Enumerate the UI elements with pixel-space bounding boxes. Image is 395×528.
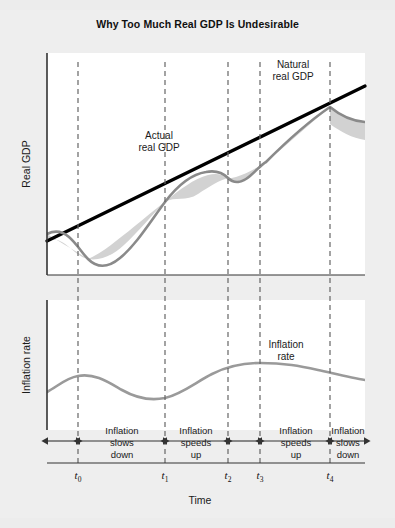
natural-real-gdp-label-line1: Natural xyxy=(277,59,309,70)
x-axis-label: Time xyxy=(189,494,212,506)
x-tick-t3: t3 xyxy=(257,469,264,484)
bottom-plot-area xyxy=(47,300,365,430)
natural-real-gdp-label-line2: real GDP xyxy=(272,71,313,82)
band-3-line1: Inflation xyxy=(331,425,364,436)
band-2-line1: Inflation xyxy=(279,425,312,436)
band-2-line3: up xyxy=(291,449,302,460)
bottom-y-axis-label: Inflation rate xyxy=(20,336,32,394)
chart-svg: Real GDP Actual real GDP Natural real GD… xyxy=(0,0,395,528)
inflation-rate-label-line1: Inflation xyxy=(268,339,303,350)
x-tick-t2: t2 xyxy=(225,469,232,484)
x-tick-t1: t1 xyxy=(162,469,169,484)
band-0-line3: down xyxy=(111,449,134,460)
band-0-line1: Inflation xyxy=(105,425,138,436)
top-y-axis-label: Real GDP xyxy=(20,140,32,187)
band-1-line1: Inflation xyxy=(179,425,212,436)
x-tick-t4: t4 xyxy=(327,469,334,484)
band-2-line2: speeds xyxy=(281,437,312,448)
band-1-line3: up xyxy=(191,449,202,460)
x-tick-t0: t0 xyxy=(75,469,82,484)
figure-container: Why Too Much Real GDP Is Undesirable xyxy=(0,0,395,528)
band-3-line3: down xyxy=(337,449,360,460)
band-3-line2: slows xyxy=(336,437,360,448)
band-1-line2: speeds xyxy=(181,437,212,448)
x-tick-labels: t0 t1 t2 t3 t4 xyxy=(75,469,334,484)
interval-band: Inflation slows down Inflation speeds up… xyxy=(47,425,365,463)
actual-real-gdp-label-line1: Actual xyxy=(145,130,173,141)
actual-real-gdp-label-line2: real GDP xyxy=(138,142,179,153)
inflation-rate-label-line2: rate xyxy=(277,351,295,362)
band-0-line2: slows xyxy=(110,437,134,448)
